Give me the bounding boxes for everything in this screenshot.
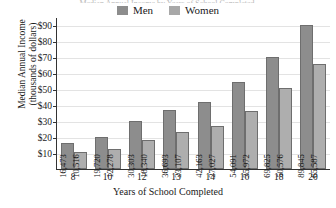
bar-women-12[interactable]: 18,340 — [142, 140, 155, 169]
x-tick-label: 20 — [296, 172, 330, 183]
x-tick-label: 8 — [56, 172, 90, 183]
y-tick-label: $40 — [38, 101, 52, 111]
legend-swatch-women-icon — [169, 6, 180, 15]
x-axis-tick-labels: 810121314161820 — [56, 172, 330, 185]
y-axis-tick-labels: $10$20$30$40$50$60$70$80$90 — [22, 18, 52, 170]
bar-group: 54,09135,972 — [232, 18, 258, 169]
plot-area: 16,47310,51619,72012,27830,30318,34036,6… — [56, 18, 330, 170]
bar-group: 16,47310,516 — [61, 18, 87, 169]
legend-label-men: Men — [133, 4, 153, 16]
bar-women-10[interactable]: 12,278 — [108, 149, 121, 169]
y-tick-label: $50 — [38, 85, 52, 95]
x-axis-title: Years of School Completed — [0, 186, 336, 198]
bar-group: 19,72012,278 — [95, 18, 121, 169]
x-tick-label: 12 — [125, 172, 159, 183]
y-tick-label: $60 — [38, 69, 52, 79]
legend-item-women: Women — [169, 4, 219, 16]
bar-women-13[interactable]: 23,107 — [176, 132, 189, 169]
x-tick-label: 13 — [159, 172, 193, 183]
chart-legend: Men Women — [0, 4, 336, 16]
bar-group: 42,16327,027 — [198, 18, 224, 169]
chart-container: Median Annual Income by Years of School … — [0, 0, 336, 208]
y-tick-label: $80 — [38, 37, 52, 47]
bar-group: 36,69323,107 — [163, 18, 189, 169]
y-tick-label: $90 — [38, 21, 52, 31]
y-tick-label: $10 — [38, 149, 52, 159]
y-tick-label: $30 — [38, 117, 52, 127]
chart-title-cropped: Median Annual Income by Years of School … — [52, 0, 282, 3]
x-tick-label: 10 — [90, 172, 124, 183]
x-tick-label: 16 — [227, 172, 261, 183]
x-tick-label: 14 — [193, 172, 227, 183]
bar-women-20[interactable]: 65,587 — [313, 64, 326, 169]
legend-item-men: Men — [117, 4, 153, 16]
x-tick-label: 18 — [262, 172, 296, 183]
legend-swatch-men-icon — [117, 6, 128, 15]
y-tick-label: $20 — [38, 133, 52, 143]
bar-women-14[interactable]: 27,027 — [211, 126, 224, 169]
bar-group: 30,30318,340 — [129, 18, 155, 169]
bar-men-18[interactable]: 69,825 — [266, 57, 279, 169]
bar-men-20[interactable]: 89,845 — [300, 25, 313, 169]
bar-groups: 16,47310,51619,72012,27830,30318,34036,6… — [57, 18, 330, 169]
bar-group: 69,82550,576 — [266, 18, 292, 169]
bar-women-16[interactable]: 35,972 — [245, 111, 258, 169]
bar-women-8[interactable]: 10,516 — [74, 152, 87, 169]
legend-label-women: Women — [185, 4, 219, 16]
y-tick-label: $70 — [38, 53, 52, 63]
bar-group: 89,84565,587 — [300, 18, 326, 169]
bar-women-18[interactable]: 50,576 — [279, 88, 292, 169]
